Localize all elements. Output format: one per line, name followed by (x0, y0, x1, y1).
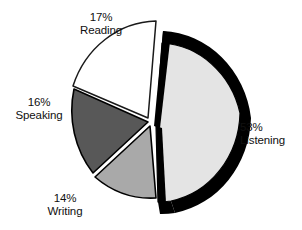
listening-percent: 53% (240, 121, 302, 134)
writing-percent: 14% (28, 192, 102, 205)
reading-percent: 17% (62, 11, 140, 24)
speaking-name: Speaking (2, 109, 76, 122)
slice-label-speaking: 16% Speaking (2, 96, 76, 122)
reading-name: Reading (62, 24, 140, 37)
writing-name: Writing (28, 205, 102, 218)
pie-chart: 17% Reading 16% Speaking 53% Listening 1… (0, 0, 302, 230)
listening-name: Listening (240, 134, 302, 147)
slice-label-listening: 53% Listening (240, 121, 302, 147)
speaking-percent: 16% (2, 96, 76, 109)
slice-label-writing: 14% Writing (28, 192, 102, 218)
slice-label-reading: 17% Reading (62, 11, 140, 37)
